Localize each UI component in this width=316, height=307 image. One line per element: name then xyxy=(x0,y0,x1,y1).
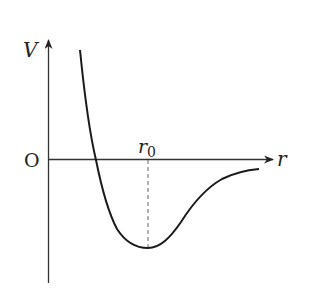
x-axis-label: r xyxy=(277,147,288,171)
r0-label-sub: 0 xyxy=(147,144,156,160)
origin-label: O xyxy=(24,149,40,171)
potential-curve xyxy=(80,50,259,248)
potential-energy-diagram: V r O r0 xyxy=(0,0,316,307)
r0-label: r0 xyxy=(138,135,156,160)
y-axis-label: V xyxy=(23,38,40,62)
